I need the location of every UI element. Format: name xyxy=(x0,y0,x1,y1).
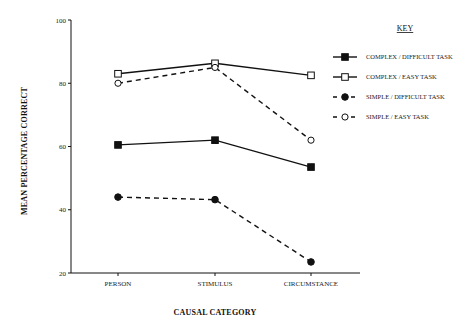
legend-item: SIMPLE / DIFFICULT TASK xyxy=(333,93,445,100)
data-point-marker xyxy=(115,70,122,77)
legend-label: SIMPLE / DIFFICULT TASK xyxy=(366,93,445,100)
series-simple-difficult-task xyxy=(115,194,315,265)
data-point-marker xyxy=(308,259,315,266)
y-tick-label: 60 xyxy=(59,143,67,151)
data-point-marker xyxy=(308,164,315,171)
line-chart: 20406080100PERSONSTIMULUSCIRCUMSTANCE KE… xyxy=(0,0,474,330)
series-layer xyxy=(115,60,315,265)
legend-marker-icon xyxy=(342,94,349,101)
series-line xyxy=(118,197,311,262)
x-tick-label: PERSON xyxy=(105,280,132,288)
data-point-marker xyxy=(115,194,122,201)
legend: KEYCOMPLEX / DIFFICULT TASKCOMPLEX / EAS… xyxy=(333,24,453,120)
legend-marker-icon xyxy=(342,74,349,81)
series-simple-easy-task xyxy=(115,64,314,143)
data-point-marker xyxy=(212,64,218,70)
series-line xyxy=(118,67,311,140)
y-tick-label: 20 xyxy=(59,270,67,278)
legend-item: SIMPLE / EASY TASK xyxy=(333,113,429,120)
x-axis-title: CAUSAL CATEGORY xyxy=(174,308,257,317)
legend-label: COMPLEX / DIFFICULT TASK xyxy=(366,53,453,60)
data-point-marker xyxy=(308,137,314,143)
y-tick-label: 100 xyxy=(56,17,67,25)
legend-label: COMPLEX / EASY TASK xyxy=(366,73,437,80)
legend-marker-icon xyxy=(342,54,349,61)
data-point-marker xyxy=(115,142,122,149)
series-line xyxy=(118,140,311,167)
data-point-marker xyxy=(212,137,219,144)
x-tick-label: STIMULUS xyxy=(197,280,232,288)
data-point-marker xyxy=(308,72,315,79)
legend-item: COMPLEX / DIFFICULT TASK xyxy=(333,53,453,60)
x-tick-label: CIRCUMSTANCE xyxy=(284,280,338,288)
legend-marker-icon xyxy=(342,114,348,120)
y-axis-title: MEAN PERCENTAGE CORRECT xyxy=(20,87,29,215)
series-complex-difficult-task xyxy=(115,137,315,170)
legend-item: COMPLEX / EASY TASK xyxy=(333,73,437,80)
legend-title: KEY xyxy=(397,24,414,33)
legend-label: SIMPLE / EASY TASK xyxy=(366,113,429,120)
data-point-marker xyxy=(212,196,219,203)
axes: 20406080100PERSONSTIMULUSCIRCUMSTANCE xyxy=(56,17,361,289)
data-point-marker xyxy=(115,80,121,86)
y-tick-label: 80 xyxy=(59,80,67,88)
y-tick-label: 40 xyxy=(59,206,67,214)
